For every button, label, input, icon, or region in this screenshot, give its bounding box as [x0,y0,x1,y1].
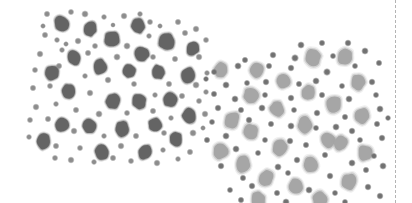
vertical-dashed-divider [395,0,396,203]
particle-scatter-canvas [0,0,412,203]
particle-figure [0,0,412,203]
